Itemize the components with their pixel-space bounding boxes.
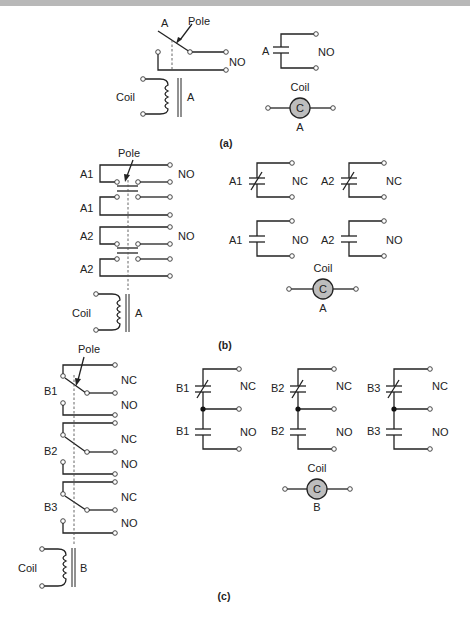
contact-type-label: NC bbox=[292, 175, 308, 187]
coil-inductor-icon bbox=[141, 77, 181, 117]
panel-caption: (c) bbox=[218, 590, 231, 602]
panel-a: A Pole NO Coil A A NO bbox=[116, 15, 335, 149]
pole-label: Pole bbox=[188, 15, 210, 27]
no-label: NO bbox=[121, 458, 138, 470]
svg-text:B1: B1 bbox=[176, 425, 189, 437]
coil-symbol-icon: C bbox=[287, 279, 359, 299]
panel-b-symbols: A1 NC A2 NC A1 NO bbox=[229, 161, 403, 314]
coil-id-label: B bbox=[80, 562, 87, 574]
coil-label: Coil bbox=[72, 307, 91, 319]
pole-label: Pole bbox=[78, 343, 100, 355]
panel-c-relay: Pole B1 NC NO B2 NC NO B3 NC NO Coil B bbox=[18, 343, 138, 588]
contact-label: A2 bbox=[321, 234, 334, 246]
svg-text:NC: NC bbox=[432, 380, 448, 392]
svg-text:NO: NO bbox=[432, 426, 449, 438]
panel-b: Pole A1 NO A1 A2 NO A2 Coil A bbox=[72, 147, 403, 351]
contact-type-label: NO bbox=[292, 234, 309, 246]
contact-type-label: NC bbox=[386, 175, 402, 187]
contact-type-label: NO bbox=[318, 46, 335, 58]
no-label: NO bbox=[121, 517, 138, 529]
svg-text:C: C bbox=[296, 102, 304, 114]
nc-label: NC bbox=[121, 491, 137, 503]
coil-label: Coil bbox=[18, 562, 37, 574]
contact-label: A bbox=[262, 45, 270, 57]
panel-c-symbols: B1 NC B1 NO B2 NC bbox=[176, 367, 449, 513]
svg-text:B3: B3 bbox=[367, 425, 380, 437]
coil-label: Coil bbox=[116, 91, 135, 103]
panel-a-symbols: A NO C Coil A bbox=[262, 32, 335, 133]
coil-title: Coil bbox=[291, 81, 310, 93]
nc-label: NC bbox=[121, 433, 137, 445]
contact-type-label: NO bbox=[386, 234, 403, 246]
no-label: NO bbox=[121, 399, 138, 411]
contact-label: B2 bbox=[44, 445, 57, 457]
contact-pair-b2: B2 NC B2 NO bbox=[271, 367, 353, 452]
svg-text:C: C bbox=[319, 283, 327, 295]
contact-pair-b3: B3 NC B3 NO bbox=[367, 367, 449, 452]
coil-id-label: A bbox=[187, 91, 195, 103]
panel-caption: (b) bbox=[218, 339, 231, 351]
contact-label: A2 bbox=[321, 175, 334, 187]
svg-text:B3: B3 bbox=[367, 382, 380, 394]
pole-label: Pole bbox=[118, 147, 140, 159]
coil-id-label: A bbox=[135, 307, 143, 319]
coil-symbol-icon: C bbox=[266, 98, 336, 118]
contact-label: A1 bbox=[80, 168, 93, 180]
coil-symbol-icon: C bbox=[283, 479, 353, 499]
contact-label: B1 bbox=[44, 385, 57, 397]
contact-label: B3 bbox=[44, 501, 57, 513]
contact-label: A2 bbox=[80, 263, 93, 275]
contact-type-label: NO bbox=[229, 56, 246, 68]
contact-type-label: NO bbox=[178, 230, 195, 242]
relay-diagram: A Pole NO Coil A A NO bbox=[0, 0, 470, 622]
contact-type-label: NO bbox=[178, 168, 195, 180]
panel-b-relay: Pole A1 NO A1 A2 NO A2 Coil A bbox=[72, 147, 195, 332]
contact-label: A1 bbox=[80, 202, 93, 214]
coil-title: Coil bbox=[308, 462, 327, 474]
coil-title: Coil bbox=[314, 262, 333, 274]
coil-id-label: A bbox=[319, 302, 327, 314]
svg-text:NC: NC bbox=[336, 380, 352, 392]
contact-label: A2 bbox=[80, 230, 93, 242]
contact-pair-b1: B1 NC B1 NO bbox=[176, 367, 257, 452]
svg-text:NC: NC bbox=[240, 380, 256, 392]
coil-id-label: B bbox=[313, 501, 320, 513]
contact-label: A bbox=[161, 17, 169, 29]
panel-c: Pole B1 NC NO B2 NC NO B3 NC NO Coil B bbox=[18, 343, 449, 602]
panel-caption: (a) bbox=[220, 137, 233, 149]
svg-text:C: C bbox=[313, 483, 321, 495]
coil-inductor-icon bbox=[94, 292, 129, 333]
contact-label: A1 bbox=[229, 234, 242, 246]
svg-text:B2: B2 bbox=[271, 425, 284, 437]
svg-text:NO: NO bbox=[240, 426, 257, 438]
panel-a-relay: A Pole NO Coil A bbox=[116, 15, 246, 117]
coil-id-label: A bbox=[296, 121, 304, 133]
nc-label: NC bbox=[121, 374, 137, 386]
coil-inductor-icon bbox=[40, 547, 75, 589]
contact-label: A1 bbox=[229, 175, 242, 187]
svg-text:NO: NO bbox=[336, 426, 353, 438]
svg-text:B1: B1 bbox=[176, 382, 189, 394]
svg-text:B2: B2 bbox=[271, 382, 284, 394]
